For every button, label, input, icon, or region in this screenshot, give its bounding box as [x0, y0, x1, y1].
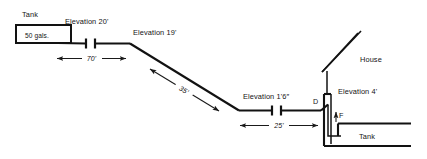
union-fitting-upper [86, 39, 130, 49]
dimension-35: 35' [150, 69, 219, 111]
elevation-19-label: Elevation 19' [133, 28, 177, 37]
pipe-run-upper-horizontal [58, 43, 86, 44]
point-d-label: D [313, 97, 318, 106]
elevation-4-label: Elevation 4' [338, 87, 378, 96]
dimension-25-label: 25' [273, 122, 284, 129]
roof-line-upper [325, 31, 361, 69]
supply-tank-capacity-label: 50 gals. [25, 32, 49, 40]
pipe-run-sloped [130, 44, 239, 111]
point-f-label: F [339, 111, 344, 120]
dimension-25: 25' [240, 119, 318, 131]
elevation-1-6-label: Elevation 1'6″ [243, 92, 289, 101]
piping-elevation-diagram: 70' 35' 25' Tank 50 gals. Elevation 20' … [0, 0, 427, 159]
roof-eave-end [322, 69, 325, 72]
pipe-run-lower-horizontal [239, 106, 321, 116]
supply-tank-title-label: Tank [22, 10, 38, 19]
pipe-segment-sloped [130, 44, 239, 111]
dimension-70: 70' [57, 52, 126, 64]
dimension-70-label: 70' [87, 55, 97, 62]
diagram-canvas: 70' 35' 25' Tank 50 gals. Elevation 20' … [0, 0, 427, 159]
house-label: House [360, 55, 382, 64]
receiving-tank-label: Tank [359, 132, 375, 141]
pipe-segment-tank-to-union [58, 43, 86, 44]
elevation-20-label: Elevation 20' [65, 17, 109, 26]
